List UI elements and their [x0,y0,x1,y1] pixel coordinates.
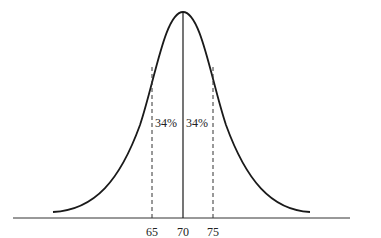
tick-label-70: 70 [177,225,189,238]
percent-label-right: 34% [186,116,208,130]
tick-label-65: 65 [146,225,158,238]
normal-distribution-chart: 34% 34% 65 70 75 [0,0,381,238]
bell-curve [53,12,310,212]
tick-label-75: 75 [207,225,219,238]
percent-label-left: 34% [155,116,177,130]
